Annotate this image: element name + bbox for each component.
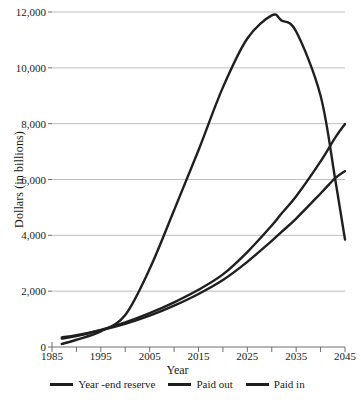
legend-label: Paid out	[196, 378, 232, 390]
y-tick-label: 2,000	[2, 286, 46, 297]
chart-legend: Year -end reservePaid outPaid in	[0, 378, 355, 390]
y-tick-label: 10,000	[2, 62, 46, 73]
x-tick-label: 1985	[29, 350, 75, 362]
legend-swatch-icon	[168, 383, 191, 386]
legend-item-2[interactable]: Paid in	[246, 378, 305, 390]
y-tick-label: 8,000	[2, 118, 46, 129]
legend-item-1[interactable]: Paid out	[168, 378, 232, 390]
x-tick-label: 2045	[322, 350, 361, 362]
x-tick-label: 2025	[224, 350, 270, 362]
x-tick-label: 2035	[273, 350, 319, 362]
x-tick-label: 2015	[176, 350, 222, 362]
legend-swatch-icon	[50, 383, 73, 386]
legend-label: Year -end reserve	[78, 378, 155, 390]
y-tick-label: 4,000	[2, 230, 46, 241]
y-tick-label: 6,000	[2, 174, 46, 185]
series-line-2	[62, 171, 345, 337]
legend-item-0[interactable]: Year -end reserve	[50, 378, 155, 390]
legend-swatch-icon	[246, 383, 269, 386]
x-axis-title: Year	[0, 363, 355, 378]
series-line-1	[62, 124, 345, 339]
x-tick-label: 1995	[78, 350, 124, 362]
x-tick-label: 2005	[127, 350, 173, 362]
legend-label: Paid in	[274, 378, 305, 390]
y-tick-label: 12,000	[2, 7, 46, 18]
